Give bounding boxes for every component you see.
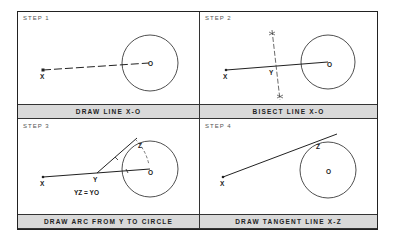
svg-text:Z: Z xyxy=(138,142,142,149)
line-y-z xyxy=(97,138,137,173)
svg-text:O: O xyxy=(148,169,153,176)
step-4-drawing: X Z O xyxy=(200,120,377,214)
tangent-line-x-z xyxy=(223,134,337,177)
panel-step-4: STEP 4 X Z O DRAW TANGENT LINE X-Z xyxy=(200,120,377,229)
svg-text:O: O xyxy=(148,60,153,67)
step-2-drawing: X Y O xyxy=(200,12,377,104)
line-x-o xyxy=(226,62,328,70)
caption: DRAW ARC FROM Y TO CIRCLE xyxy=(18,214,199,229)
svg-text:YZ = YO: YZ = YO xyxy=(74,189,99,196)
panel-step-1: STEP 1 X O DRAW LINE X-O xyxy=(18,12,199,119)
svg-text:X: X xyxy=(223,73,228,80)
point-x xyxy=(42,176,45,179)
caption: BISECT LINE X-O xyxy=(200,104,377,119)
step-1-drawing: X O xyxy=(18,12,199,104)
panel-step-3: STEP 3 X Y Z O YZ = YO DRAW ARC FROM Y T… xyxy=(18,120,199,229)
caption: DRAW TANGENT LINE X-Z xyxy=(200,214,377,229)
svg-text:X: X xyxy=(220,180,225,187)
svg-text:O: O xyxy=(327,61,332,68)
svg-text:O: O xyxy=(326,168,331,175)
bisector-line xyxy=(272,30,280,100)
svg-text:X: X xyxy=(40,180,45,187)
point-x xyxy=(42,69,45,72)
step-3-drawing: X Y Z O YZ = YO xyxy=(18,120,199,214)
svg-text:Y: Y xyxy=(269,69,274,76)
dashed-line-x-o xyxy=(43,63,149,70)
point-x xyxy=(225,69,228,72)
caption: DRAW LINE X-O xyxy=(18,104,199,119)
point-x xyxy=(222,176,225,179)
diagram-frame: STEP 1 X O DRAW LINE X-O STEP 2 X Y O BI… xyxy=(17,11,378,230)
svg-text:Y: Y xyxy=(93,176,98,183)
svg-text:Z: Z xyxy=(316,143,320,150)
panel-step-2: STEP 2 X Y O BISECT LINE X-O xyxy=(200,12,377,119)
svg-text:X: X xyxy=(40,73,45,80)
